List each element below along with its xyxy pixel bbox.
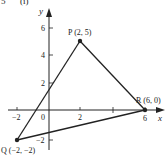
triangle-diagram: 5 (i) −2 0 2 6 x y 6 4 2 −2 P (2, 5) Q (… bbox=[0, 0, 166, 156]
y-axis-arrow-icon bbox=[46, 8, 52, 17]
x-tick-label-0: 0 bbox=[41, 113, 45, 122]
point-p-label: P (2, 5) bbox=[68, 28, 92, 37]
y-axis: y 6 4 2 −2 bbox=[36, 6, 53, 150]
y-tick-label-neg2: −2 bbox=[36, 136, 45, 145]
point-q-label: Q (−2, −2) bbox=[1, 146, 35, 155]
x-tick-label-neg2: −2 bbox=[12, 113, 21, 122]
point-p bbox=[78, 39, 82, 43]
x-axis: −2 0 2 6 x bbox=[8, 107, 165, 123]
question-part: (i) bbox=[20, 0, 29, 6]
x-axis-label: x bbox=[157, 113, 162, 123]
x-tick-label-2: 2 bbox=[78, 113, 82, 122]
question-number: 5 bbox=[1, 0, 6, 6]
x-tick-label-6: 6 bbox=[143, 114, 147, 123]
point-q bbox=[15, 138, 19, 142]
y-tick-label-2: 2 bbox=[41, 79, 45, 88]
point-r-label: R (6, 0) bbox=[136, 96, 161, 105]
y-tick-label-6: 6 bbox=[41, 24, 45, 33]
y-axis-label: y bbox=[38, 6, 43, 16]
y-tick-label-4: 4 bbox=[41, 51, 45, 60]
point-r bbox=[143, 108, 147, 112]
